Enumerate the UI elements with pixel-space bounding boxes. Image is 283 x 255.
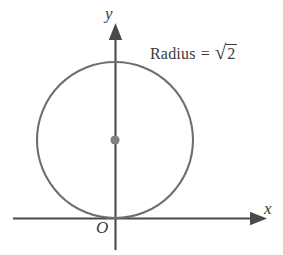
radius-annotation-word: Radius (150, 46, 196, 62)
origin-label: O (96, 219, 108, 236)
diagram-canvas (0, 0, 283, 255)
radius-annotation-equals: = (201, 46, 210, 62)
center-point-dot (110, 135, 119, 144)
x-axis-label: x (264, 200, 272, 217)
radical-sign-icon: √ (215, 44, 227, 62)
y-axis-label: y (105, 5, 113, 22)
radius-annotation: Radius = √ 2 (150, 44, 236, 62)
square-root-expression: √ 2 (215, 44, 237, 62)
radicand-value: 2 (226, 44, 236, 62)
circle-diagram-figure: y x O Radius = √ 2 (0, 0, 283, 255)
